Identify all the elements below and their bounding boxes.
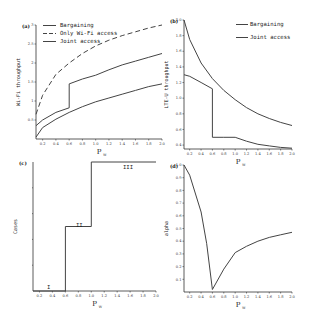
legend-item: Joint access [250,34,290,40]
panel-c-axes [33,162,156,291]
x-axis-label: P [236,158,241,166]
x-tick-label: 1.0 [88,294,94,298]
x-tick-label: 2.0 [289,295,295,299]
x-tick-label: 1.6 [133,142,139,146]
x-tick-label: 2.0 [159,142,165,146]
figure-4-panels: 0.20.40.60.81.01.21.41.61.82.00.511.522.… [0,0,325,321]
y-tick-label: 1.8 [176,34,182,38]
y-tick-label: 1.2 [176,81,182,85]
y-tick-label: 0.2 [176,265,182,269]
x-tick-label: 0.8 [221,295,227,299]
x-axis-label-subscript: W [242,163,246,167]
series-bargaining [36,54,162,126]
x-tick-label: 1.8 [146,142,152,146]
y-tick-label: 1.5 [28,80,34,84]
y-tick-label: 3 [31,23,34,27]
y-tick-label: 0.5 [28,118,34,122]
x-tick-label: 0.8 [80,142,86,146]
x-axis-label: P [92,300,97,308]
x-tick-label: 0.4 [50,294,56,298]
x-axis-label: P [236,301,241,309]
x-axis-label: P [97,148,102,156]
y-tick-label: 0.9 [176,176,182,180]
y-axis-label: LTE-U throughput [163,60,170,108]
x-tick-label: 1.0 [93,142,99,146]
panel-label: (c) [19,160,27,166]
x-tick-label: 0.8 [221,152,227,156]
x-tick-label: 0.4 [53,142,59,146]
panel-label: (a) [22,23,30,29]
x-tick-label: 0.2 [187,295,193,299]
series-case [33,162,156,291]
panel-label: (d) [170,163,178,169]
panel-label: (b) [170,18,178,24]
y-tick-label: 0.3 [176,252,182,256]
x-tick-label: 0.6 [210,295,216,299]
case-annotation-III: III [123,164,133,170]
x-tick-label: 1.6 [266,295,272,299]
y-tick-label: 0.1 [176,278,182,282]
y-tick-label: 1.0 [176,96,182,100]
y-tick-label: 0.7 [176,201,182,205]
x-tick-label: 1.4 [255,152,261,156]
y-tick-label: 2.5 [28,42,34,46]
y-tick-label: 0.4 [176,143,182,147]
y-axis-label: alpha [163,221,170,236]
x-axis-label-subscript: W [99,305,103,309]
y-tick-label: 0.8 [176,189,182,193]
x-tick-label: 1.2 [106,142,112,146]
x-tick-label: 0.2 [40,142,46,146]
y-tick-label: 0.5 [176,227,182,231]
case-annotation-II: II [76,222,83,228]
legend-item: Bargaining [250,21,284,28]
x-tick-label: 0.4 [198,152,204,156]
y-tick-label: 0.6 [176,128,182,132]
y-tick-label: 0.6 [176,214,182,218]
x-tick-label: 1.8 [278,295,284,299]
y-tick-label: 2 [31,61,33,65]
x-tick-label: 1.0 [232,152,238,156]
x-tick-label: 0.6 [210,152,216,156]
x-tick-label: 2.0 [153,294,159,298]
x-tick-label: 0.6 [63,294,69,298]
x-tick-label: 1.8 [278,152,284,156]
y-tick-label: 0.4 [176,239,182,243]
legend-item: Joint access [60,38,100,44]
x-tick-label: 1.4 [119,142,125,146]
series-bargaining [184,75,292,149]
x-tick-label: 1.8 [140,294,146,298]
y-tick-label: 1.6 [176,49,182,53]
x-tick-label: 0.6 [66,142,72,146]
x-tick-label: 1.6 [127,294,133,298]
x-axis-label-subscript: W [103,153,107,157]
x-tick-label: 1.6 [266,152,272,156]
x-tick-label: 0.4 [198,295,204,299]
x-tick-label: 1.4 [255,295,261,299]
x-tick-label: 0.2 [187,152,193,156]
x-tick-label: 1.0 [232,295,238,299]
legend-item: Only Wi-Fi access [60,30,117,37]
y-tick-label: 0.8 [176,112,182,116]
series-joint-access [36,84,162,137]
y-axis-label: Cases [12,219,18,234]
x-tick-label: 0.2 [37,294,43,298]
x-tick-label: 1.2 [244,295,250,299]
series-alpha [184,165,292,290]
panel-d-axes [184,165,292,292]
case-annotation-I: I [47,284,50,290]
x-tick-label: 1.4 [114,294,120,298]
legend-item: Bargaining [60,22,94,29]
x-tick-label: 1.2 [101,294,107,298]
x-tick-label: 2.0 [289,152,295,156]
x-axis-label-subscript: W [242,306,246,310]
y-axis-label: Wi-Fi throughput [15,58,22,106]
y-tick-label: 1 [31,99,33,103]
x-tick-label: 1.2 [244,152,250,156]
x-tick-label: 0.8 [75,294,81,298]
y-tick-label: 1.4 [176,65,182,69]
